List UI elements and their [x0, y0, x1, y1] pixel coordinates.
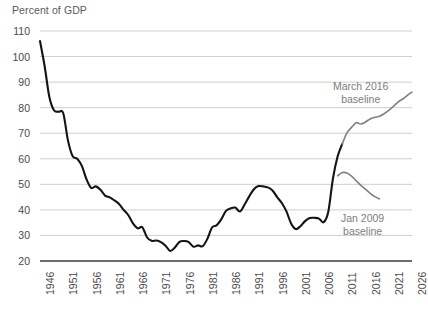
y-axis-tick-100: 100: [6, 51, 30, 63]
x-axis-tick-1946: 1946: [44, 272, 56, 295]
x-axis-tick-1956: 1956: [91, 272, 103, 295]
annotation-line-2: baseline: [341, 225, 384, 238]
x-axis-tick-2001: 2001: [300, 272, 312, 295]
y-axis-tick-20: 20: [6, 255, 30, 267]
y-axis-tick-80: 80: [6, 102, 30, 114]
y-axis-tick-40: 40: [6, 204, 30, 216]
x-axis-tick-1961: 1961: [114, 272, 126, 295]
x-axis-tick-1986: 1986: [230, 272, 242, 295]
annotation-line-2: baseline: [333, 93, 388, 106]
x-axis-tick-2011: 2011: [346, 272, 358, 295]
y-axis-tick-70: 70: [6, 127, 30, 139]
y-axis-tick-90: 90: [6, 76, 30, 88]
series-line-2: [338, 172, 380, 199]
x-axis-tick-1996: 1996: [277, 272, 289, 295]
x-axis-tick-1971: 1971: [160, 272, 172, 295]
x-axis-tick-1966: 1966: [137, 272, 149, 295]
annotation-line-1: March 2016: [333, 80, 388, 93]
x-axis-tick-1981: 1981: [207, 272, 219, 295]
x-axis-tick-1991: 1991: [253, 272, 265, 295]
annotation-march-2016-baseline: March 2016baseline: [333, 80, 388, 106]
x-axis-tick-1951: 1951: [67, 272, 79, 295]
x-axis-tick-2006: 2006: [323, 272, 335, 295]
y-axis-tick-30: 30: [6, 229, 30, 241]
y-axis-tick-60: 60: [6, 153, 30, 165]
annotation-line-1: Jan 2009: [341, 212, 384, 225]
x-axis-tick-2021: 2021: [393, 272, 405, 295]
x-axis-tick-1976: 1976: [184, 272, 196, 295]
y-axis-tick-50: 50: [6, 178, 30, 190]
y-axis-tick-110: 110: [6, 25, 30, 37]
x-axis-tick-2026: 2026: [416, 272, 428, 295]
annotation-jan-2009-baseline: Jan 2009baseline: [341, 212, 384, 238]
series-line-0: [40, 41, 342, 251]
x-axis-tick-2016: 2016: [370, 272, 382, 295]
